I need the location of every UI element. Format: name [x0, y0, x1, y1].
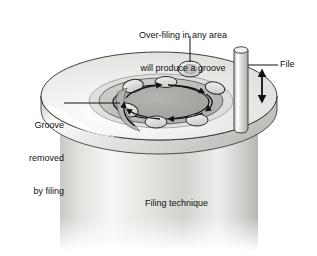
label-groove-line2: removed — [8, 153, 64, 164]
label-groove-line1: Groove — [8, 120, 64, 131]
label-over-filing-line1: Over-filing in any area — [139, 30, 227, 41]
label-groove-line3: by filing — [8, 186, 64, 197]
label-over-filing-line2: will produce a groove — [139, 63, 227, 74]
figure-canvas: Over-filing in any area will produce a g… — [0, 0, 317, 256]
label-file: File — [280, 59, 295, 70]
file-instrument — [234, 47, 248, 133]
figure-caption: Filing technique — [145, 198, 208, 209]
label-groove-removed: Groove removed by filing — [8, 98, 64, 219]
label-over-filing: Over-filing in any area will produce a g… — [139, 8, 227, 96]
